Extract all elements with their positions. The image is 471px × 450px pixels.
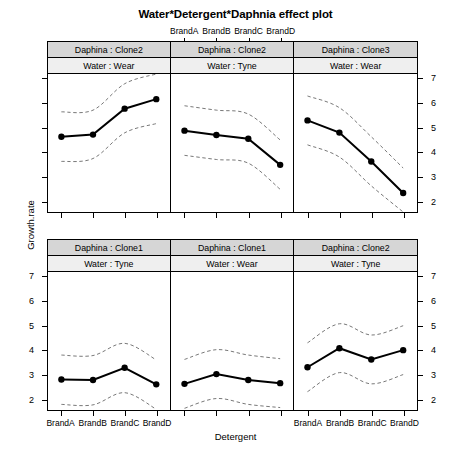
plot-area-p2: [294, 73, 418, 213]
confidence-band-lower: [61, 393, 156, 410]
x-tick-label: BrandD: [143, 418, 172, 428]
y-tick: [418, 202, 423, 203]
x-tick-label: BrandD: [390, 418, 419, 428]
strip-water-p0: Water : Wear: [47, 57, 171, 73]
x-tick: [61, 213, 62, 218]
x-tick: [308, 411, 309, 416]
panel-top-left: Daphina : Clone2 Water : Wear 234567: [47, 41, 171, 213]
y-axis-title: Growth.rate: [25, 200, 36, 250]
x-tick: [184, 213, 185, 218]
y-tick-label: 2: [29, 395, 34, 405]
strip-label: Daphina : Clone1: [198, 243, 266, 253]
strip-label: Daphina : Clone2: [322, 243, 390, 253]
x-ticks-p2: [294, 213, 418, 218]
y-tick-label: 3: [431, 370, 436, 380]
confidence-band-upper: [184, 106, 280, 140]
effect-line: [61, 99, 156, 137]
confidence-band-upper: [61, 74, 156, 113]
y-tick-label: 3: [29, 370, 34, 380]
strip-label: Daphina : Clone2: [75, 45, 143, 55]
y-tick: [418, 400, 423, 401]
x-tick: [372, 411, 373, 416]
y-tick: [418, 375, 423, 376]
data-point-BrandB: [213, 371, 219, 377]
strip-water-p4: Water : Wear: [171, 255, 295, 271]
x-tick: [340, 411, 341, 416]
data-point-BrandD: [153, 96, 159, 102]
x-ticks-p3: [47, 411, 171, 416]
data-point-BrandC: [368, 158, 374, 164]
y-tick: [42, 276, 47, 277]
panel-bottom-middle: Daphina : Clone1 Water : Wear: [171, 239, 295, 411]
data-point-BrandB: [213, 132, 219, 138]
y-tick-label: 5: [431, 321, 436, 331]
y-tick: [418, 350, 423, 351]
data-point-BrandD: [153, 381, 159, 387]
x-tick: [157, 213, 158, 218]
x-tick: [340, 213, 341, 218]
x-tick: [93, 411, 94, 416]
data-point-BrandD: [277, 162, 283, 168]
y-tick: [42, 177, 47, 178]
strip-label: Water : Wear: [330, 61, 381, 71]
y-tick: [42, 78, 47, 79]
y-tick-label: 7: [29, 271, 34, 281]
strip-water-p2: Water : Wear: [294, 57, 418, 73]
strip-label: Water : Tyne: [84, 259, 133, 269]
y-tick: [418, 152, 423, 153]
y-tick-label: 5: [29, 321, 34, 331]
strip-label: Water : Tyne: [331, 259, 380, 269]
data-point-BrandC: [121, 365, 127, 371]
data-point-BrandA: [181, 381, 187, 387]
data-point-BrandD: [400, 190, 406, 196]
data-point-BrandB: [337, 345, 343, 351]
effect-line: [184, 374, 280, 384]
x-tick: [184, 411, 185, 416]
x-tick: [404, 213, 405, 218]
data-point-BrandB: [90, 377, 96, 383]
top-x-axis-labels: BrandABrandBBrandCBrandD: [171, 26, 295, 38]
y-tick-label: 4: [431, 345, 436, 355]
y-tick: [42, 301, 47, 302]
y-tick-label: 6: [431, 296, 436, 306]
y-tick-label: 4: [29, 345, 34, 355]
strip-daphnia-p0: Daphina : Clone2: [47, 41, 171, 57]
y-tick: [42, 375, 47, 376]
y-tick: [418, 276, 423, 277]
panel-bottom-right: Daphina : Clone2 Water : Tyne 234567 Bra…: [294, 239, 418, 411]
x-axis-title: Detergent: [0, 431, 471, 442]
data-point-BrandA: [181, 127, 187, 133]
x-axis-labels-p3: BrandABrandBBrandCBrandD: [47, 418, 171, 430]
strip-label: Water : Wear: [206, 259, 257, 269]
data-point-BrandC: [121, 106, 127, 112]
y-tick-label: 7: [431, 73, 436, 83]
data-point-BrandC: [245, 377, 251, 383]
x-ticks-p0: [47, 213, 171, 218]
x-ticks-p1: [171, 213, 295, 218]
data-point-BrandA: [58, 376, 64, 382]
y-tick: [42, 350, 47, 351]
x-tick: [249, 213, 250, 218]
y-tick-label: 3: [431, 172, 436, 182]
plot-area-p4: [171, 271, 295, 411]
y-tick: [42, 400, 47, 401]
x-tick: [216, 411, 217, 416]
y-tick-label: 7: [431, 271, 436, 281]
plot-area-p5: [294, 271, 418, 411]
y-tick-label: 6: [29, 296, 34, 306]
x-tick-label: BrandA: [294, 418, 322, 428]
top-x-tick-label: BrandB: [202, 26, 230, 36]
y-tick-label: 2: [431, 197, 436, 207]
plot-area-p1: [171, 73, 295, 213]
strip-daphnia-p2: Daphina : Clone3: [294, 41, 418, 57]
effect-line: [308, 120, 404, 193]
panel-grid: Daphina : Clone2 Water : Wear 234567 Dap…: [47, 41, 418, 411]
panel-row-bottom: Daphina : Clone1 Water : Tyne 234567 Bra…: [47, 239, 418, 411]
strip-label: Water : Wear: [83, 61, 134, 71]
y-tick-label: 6: [431, 98, 436, 108]
y-tick: [42, 128, 47, 129]
y-tick: [42, 103, 47, 104]
plot-area-p0: [47, 73, 171, 213]
confidence-band-upper: [308, 96, 404, 168]
strip-water-p5: Water : Tyne: [294, 255, 418, 271]
